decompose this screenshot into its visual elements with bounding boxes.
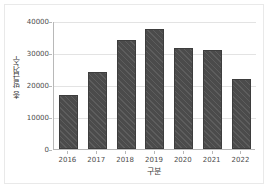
x-tick-mark bbox=[154, 151, 155, 154]
y-axis-title: 총 발급건수 bbox=[12, 56, 23, 99]
bar-slot bbox=[141, 21, 169, 149]
y-tick-mark bbox=[49, 118, 52, 119]
bar-slot bbox=[170, 21, 198, 149]
bar-2018[interactable] bbox=[117, 40, 136, 149]
x-tick-mark bbox=[240, 151, 241, 154]
x-tick-label: 2020 bbox=[169, 156, 197, 164]
x-tick-label: 2021 bbox=[198, 156, 226, 164]
x-tick-label: 2022 bbox=[226, 156, 254, 164]
x-tick-mark bbox=[212, 151, 213, 154]
y-tick-label: 40000 bbox=[3, 19, 49, 26]
y-tick-label: 30000 bbox=[3, 51, 49, 58]
x-tick-mark bbox=[96, 151, 97, 154]
y-tick-mark bbox=[49, 86, 52, 87]
bar-2022[interactable] bbox=[232, 79, 251, 149]
bar-2017[interactable] bbox=[88, 72, 107, 149]
plot-area bbox=[53, 22, 255, 150]
bar-slot bbox=[54, 21, 82, 149]
y-tick-mark bbox=[49, 54, 52, 55]
y-tick-label: 0 bbox=[3, 147, 49, 154]
bar-slot bbox=[83, 21, 111, 149]
x-tick-label: 2017 bbox=[82, 156, 110, 164]
y-tick-mark bbox=[49, 150, 52, 151]
x-tick-label: 2018 bbox=[111, 156, 139, 164]
x-axis-title: 구분 bbox=[53, 167, 255, 176]
bar-2020[interactable] bbox=[174, 48, 193, 149]
y-axis: 40000 30000 20000 10000 0 bbox=[0, 0, 49, 189]
bar-2021[interactable] bbox=[203, 50, 222, 149]
y-tick-label: 10000 bbox=[3, 115, 49, 122]
x-tick-mark bbox=[183, 151, 184, 154]
x-tick-label: 2019 bbox=[140, 156, 168, 164]
bar-series bbox=[54, 21, 256, 149]
y-tick-mark bbox=[49, 22, 52, 23]
bar-2019[interactable] bbox=[145, 29, 164, 149]
x-tick-mark bbox=[125, 151, 126, 154]
bar-slot bbox=[112, 21, 140, 149]
x-tick-label: 2016 bbox=[53, 156, 81, 164]
y-tick-label: 20000 bbox=[3, 83, 49, 90]
bar-slot bbox=[227, 21, 255, 149]
bar-chart: 40000 30000 20000 10000 0 총 발급건수 2 bbox=[0, 0, 269, 189]
bar-slot bbox=[199, 21, 227, 149]
bar-2016[interactable] bbox=[59, 95, 78, 149]
x-tick-mark bbox=[67, 151, 68, 154]
